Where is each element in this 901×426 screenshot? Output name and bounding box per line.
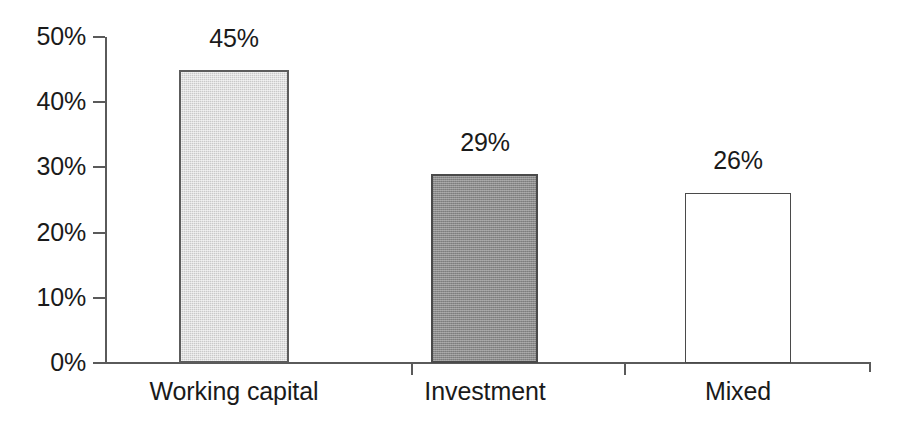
- bar-investment: [431, 174, 538, 363]
- y-tick-label-30: 30%: [0, 154, 86, 179]
- bar-mixed: [685, 193, 791, 363]
- category-label-mixed: Mixed: [618, 376, 858, 406]
- value-label-mixed: 26%: [678, 148, 798, 173]
- y-tick-30: [93, 166, 105, 168]
- category-label-investment: Investment: [365, 376, 605, 406]
- y-tick-50: [93, 36, 105, 38]
- bar-working-capital: [179, 70, 289, 363]
- y-tick-10: [93, 297, 105, 299]
- x-tick-separator-2: [624, 364, 626, 375]
- category-label-working-capital: Working capital: [114, 376, 354, 406]
- x-tick-separator-1: [411, 364, 413, 375]
- y-tick-label-40-wrap: 40%: [0, 89, 86, 114]
- y-tick-20: [93, 232, 105, 234]
- y-tick-label-40: 40%: [0, 89, 86, 114]
- y-tick-label-0: 0%: [0, 350, 86, 375]
- y-tick-40: [93, 101, 105, 103]
- value-label-working-capital: 45%: [174, 26, 294, 51]
- y-tick-label-50: 50%: [0, 24, 86, 49]
- y-tick-0: [93, 362, 105, 364]
- y-tick-label-30-wrap: 30%: [0, 154, 86, 179]
- y-tick-label-10: 10%: [0, 285, 86, 310]
- y-tick-label-10-wrap: 10%: [0, 285, 86, 310]
- y-tick-label-50-wrap: 50%: [0, 24, 86, 49]
- y-tick-label-20-wrap: 20%: [0, 220, 86, 245]
- y-axis-line: [105, 37, 107, 364]
- bar-chart: 50% 40% 30% 20% 10% 0% 45% 29% 26% Worki…: [0, 0, 901, 426]
- value-label-investment: 29%: [425, 130, 545, 155]
- x-axis-end-tick: [869, 362, 871, 372]
- y-tick-label-20: 20%: [0, 220, 86, 245]
- y-tick-label-0-wrap: 0%: [0, 350, 86, 375]
